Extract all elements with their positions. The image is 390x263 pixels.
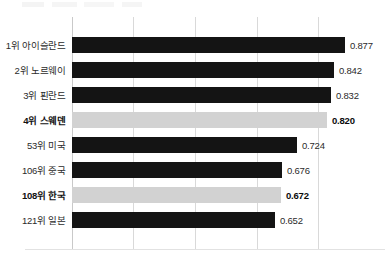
cropped-title-strip (22, 2, 142, 7)
bar-value-label: 0.877 (350, 40, 373, 51)
row-label: 3위 핀란드 (0, 90, 66, 101)
chart-baseline (25, 249, 385, 250)
row-label: 2위 노르웨이 (0, 65, 66, 76)
bar (72, 87, 331, 103)
bar-row: 53위 미국 0.724 (0, 133, 390, 158)
bar-row: 3위 핀란드 0.832 (0, 83, 390, 108)
row-label: 106위 중국 (0, 165, 66, 176)
bar (72, 37, 345, 53)
bar-value-label: 0.676 (287, 165, 310, 176)
bar-value-label: 0.842 (339, 65, 362, 76)
bar-row: 121위 일본 0.652 (0, 208, 390, 233)
bar (72, 62, 334, 78)
bar (72, 212, 275, 228)
row-label: 121위 일본 (0, 215, 66, 226)
bar-value-label: 0.724 (302, 140, 325, 151)
bar-highlight (72, 187, 281, 203)
row-label: 108위 한국 (0, 190, 66, 201)
bar-value-label: 0.672 (286, 190, 309, 201)
bar-row: 1위 아이슬란드 0.877 (0, 33, 390, 58)
bar-value-label: 0.832 (336, 90, 359, 101)
bar-value-label: 0.820 (332, 115, 355, 126)
bar (72, 162, 282, 178)
bar (72, 137, 297, 153)
row-label: 1위 아이슬란드 (0, 40, 66, 51)
bar-chart: 1위 아이슬란드 0.877 2위 노르웨이 0.842 3위 핀란드 0.83… (0, 0, 390, 263)
row-label: 53위 미국 (0, 140, 66, 151)
bar-value-label: 0.652 (280, 215, 303, 226)
bar-row-highlighted: 108위 한국 0.672 (0, 183, 390, 208)
row-label: 4위 스웨덴 (0, 115, 66, 126)
bar-row: 106위 중국 0.676 (0, 158, 390, 183)
bar-highlight (72, 112, 327, 128)
bar-row-highlighted: 4위 스웨덴 0.820 (0, 108, 390, 133)
bar-row: 2위 노르웨이 0.842 (0, 58, 390, 83)
